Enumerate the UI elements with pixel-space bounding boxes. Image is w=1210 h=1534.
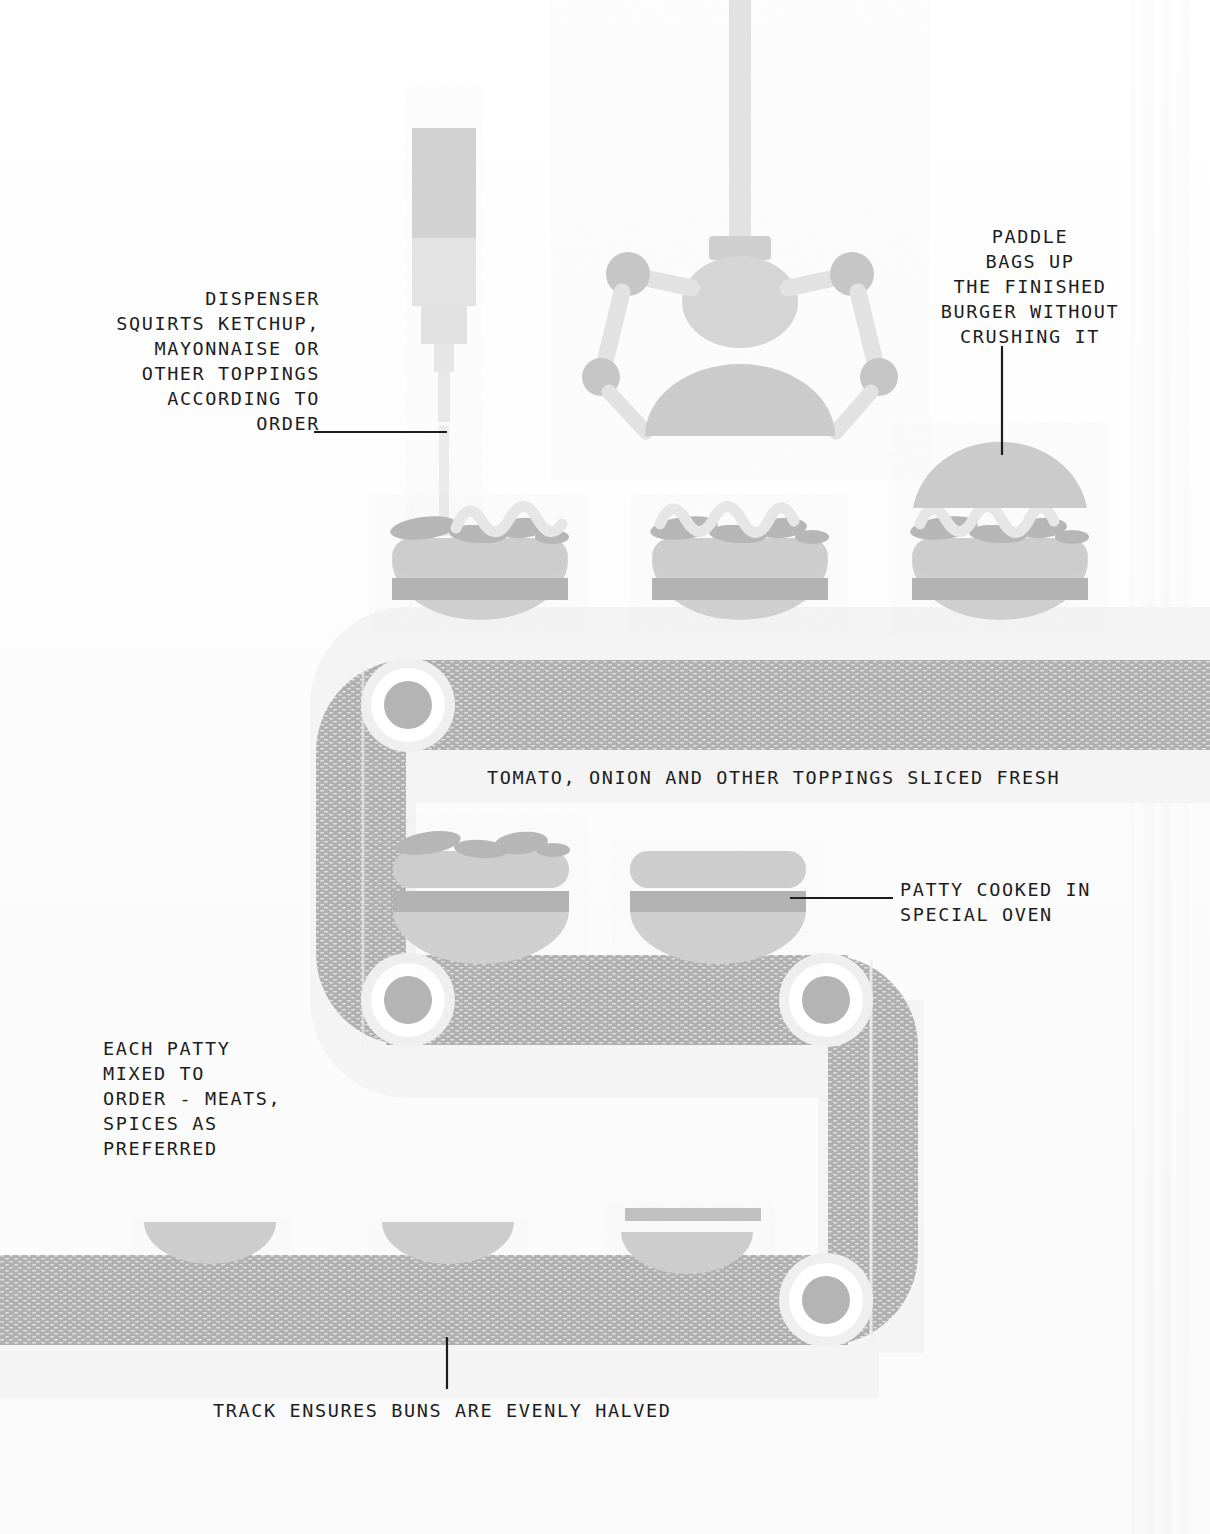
- dispenser-label: DISPENSER SQUIRTS KETCHUP, MAYONNAISE OR…: [20, 286, 320, 436]
- paddle-label: PADDLE BAGS UP THE FINISHED BURGER WITHO…: [900, 224, 1160, 349]
- patty-oven-label: PATTY COOKED IN SPECIAL OVEN: [900, 877, 1180, 927]
- track-label: TRACK ENSURES BUNS ARE EVENLY HALVED: [213, 1398, 813, 1423]
- burger-line-infographic: DISPENSER SQUIRTS KETCHUP, MAYONNAISE OR…: [0, 0, 1210, 1534]
- burger-mid-1: [393, 827, 570, 964]
- burger-top-1: [389, 506, 569, 620]
- pulley-mid-left: [361, 953, 455, 1047]
- burger-top-3: [909, 442, 1089, 620]
- pulley-bottom-right: [779, 1253, 873, 1347]
- pulley-mid-right: [779, 953, 873, 1047]
- burger-top-2: [649, 506, 829, 620]
- robot-paddle-arm: [582, 0, 898, 436]
- toppings-label: TOMATO, ONION AND OTHER TOPPINGS SLICED …: [487, 765, 1107, 790]
- sauce-dispenser: [412, 128, 476, 536]
- pulley-top-left: [361, 658, 455, 752]
- each-patty-label: EACH PATTY MIXED TO ORDER - MEATS, SPICE…: [103, 1036, 383, 1161]
- burger-mid-2: [630, 851, 806, 964]
